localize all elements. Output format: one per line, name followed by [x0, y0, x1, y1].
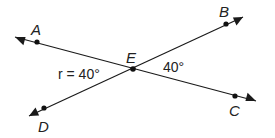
angle-right-label: 40°	[163, 59, 184, 75]
label-c: C	[229, 102, 240, 119]
point-b	[223, 21, 228, 26]
point-a	[34, 39, 39, 44]
label-e: E	[126, 49, 137, 66]
point-c	[232, 93, 237, 98]
point-d	[41, 105, 46, 110]
point-e	[130, 66, 136, 72]
label-d: D	[38, 118, 49, 135]
arrowhead-left-icon	[15, 37, 26, 45]
label-a: A	[30, 21, 41, 38]
arrowhead-right-icon	[245, 93, 256, 101]
label-b: B	[219, 3, 229, 20]
intersecting-lines-diagram: A B C D E r = 40° 40°	[0, 0, 275, 138]
angle-r-label: r = 40°	[58, 66, 100, 82]
